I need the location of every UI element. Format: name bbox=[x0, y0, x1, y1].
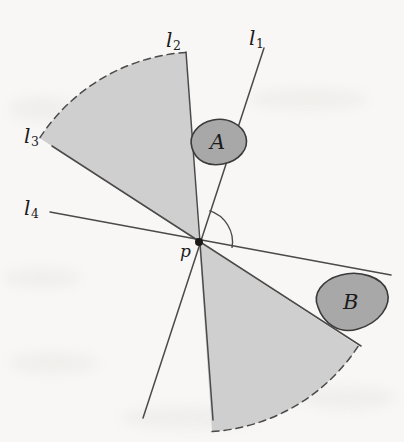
point-p-dot bbox=[195, 238, 203, 246]
geometry-figure: l1 l2 l3 l4 A B p bbox=[0, 0, 404, 442]
region-b-blob bbox=[316, 273, 388, 330]
sector-lower-right bbox=[199, 242, 358, 432]
sector-upper-left bbox=[40, 52, 199, 242]
diagram-canvas bbox=[0, 0, 404, 442]
region-a-blob bbox=[191, 119, 246, 164]
